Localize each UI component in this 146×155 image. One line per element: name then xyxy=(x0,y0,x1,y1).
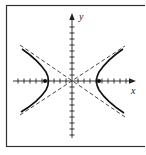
focus-right-point xyxy=(97,79,101,83)
y-axis xyxy=(70,17,75,138)
x-axis-label: x xyxy=(130,85,136,96)
y-axis-label: y xyxy=(78,11,84,22)
figure-frame xyxy=(7,6,146,147)
y-axis-arrow-icon xyxy=(69,13,74,20)
x-axis-arrow-icon xyxy=(129,78,136,83)
focus-left-point xyxy=(43,79,47,83)
hyperbola-figure: x y xyxy=(0,0,145,155)
x-axis xyxy=(13,79,132,84)
